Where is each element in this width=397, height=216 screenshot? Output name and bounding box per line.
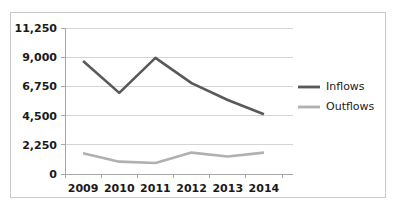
gridlines	[65, 28, 293, 145]
legend-label-inflows: Inflows	[326, 80, 365, 93]
y-axis-tick-label: 2,250	[22, 139, 57, 152]
y-axis-tick-label: 4,500	[22, 110, 57, 123]
chart-frame: 02,2504,5006,7509,00011,250 200920102011…	[10, 12, 386, 198]
legend-label-outflows: Outflows	[326, 100, 375, 113]
x-axis-tick-label: 2012	[176, 182, 207, 195]
series-line-outflows	[83, 153, 264, 163]
y-axis-tick-label: 9,000	[22, 51, 57, 64]
y-axis-tick-label: 6,750	[22, 80, 57, 93]
x-axis-tick-label: 2013	[212, 182, 243, 195]
y-axis-tick-label: 11,250	[15, 22, 58, 35]
y-axis-tick-labels: 02,2504,5006,7509,00011,250	[15, 22, 58, 181]
x-axis-tick-labels: 200920102011201220132014	[68, 182, 280, 195]
x-axis-tick-label: 2010	[104, 182, 135, 195]
line-chart: 02,2504,5006,7509,00011,250 200920102011…	[11, 13, 385, 197]
x-axis-tick-label: 2011	[140, 182, 171, 195]
x-axis-tick-label: 2009	[68, 182, 99, 195]
x-axis-tick-marks	[65, 174, 282, 178]
y-axis-tick-marks	[61, 28, 65, 174]
data-series	[83, 58, 264, 163]
y-axis-tick-label: 0	[49, 168, 57, 181]
chart-legend: InflowsOutflows	[298, 80, 375, 113]
x-axis-tick-label: 2014	[249, 182, 280, 195]
